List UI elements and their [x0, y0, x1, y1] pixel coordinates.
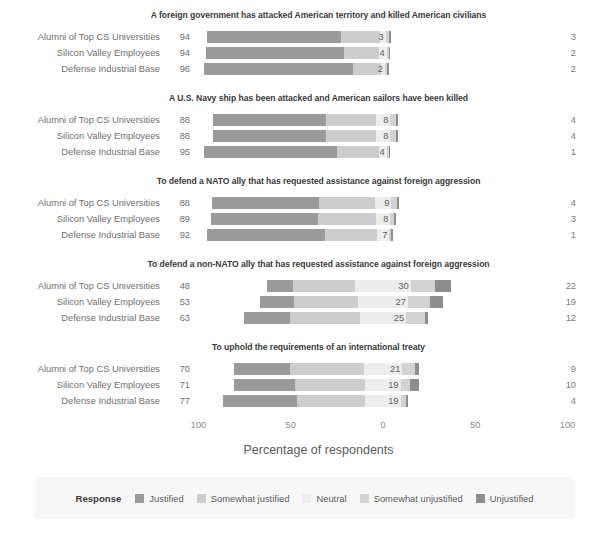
row-group-label: Defense Industrial Base — [0, 228, 160, 242]
legend-swatch-icon — [197, 494, 206, 503]
legend-item[interactable]: Justified — [135, 493, 183, 504]
legend-swatch-icon — [360, 494, 369, 503]
row-group-label: Silicon Valley Employees — [0, 129, 160, 143]
legend-item[interactable]: Somewhat justified — [197, 493, 290, 504]
bar-segment-unjustified — [397, 197, 399, 209]
panel-title: To defend a non-NATO ally that has reque… — [0, 259, 609, 269]
chart-row: Alumni of Top CS Universities8848 — [0, 113, 609, 127]
row-group-label: Alumni of Top CS Universities — [0, 113, 160, 127]
x-axis-title: Percentage of respondents — [0, 443, 609, 457]
bar-segment-unjustified — [435, 280, 452, 292]
bar-segment-unjustified — [396, 114, 398, 126]
row-group-label: Defense Industrial Base — [0, 62, 160, 76]
row-left-total: 71 — [164, 378, 190, 392]
bar-segment-justified — [234, 363, 289, 375]
row-left-total: 88 — [164, 129, 190, 143]
bar-segment-somewhat-justified — [326, 114, 376, 126]
panel-title: A U.S. Navy ship has been attacked and A… — [0, 93, 609, 103]
x-axis-tick: 100 — [560, 420, 576, 430]
chart-row: Alumni of Top CS Universities70921 — [0, 362, 609, 376]
legend-item[interactable]: Neutral — [302, 493, 346, 504]
stacked-bar — [196, 63, 570, 75]
row-neutral-value: 8 — [383, 129, 388, 143]
bar-segment-justified — [204, 146, 337, 158]
chart-row: Silicon Valley Employees8848 — [0, 129, 609, 143]
row-group-label: Defense Industrial Base — [0, 311, 160, 325]
chart-row: Alumni of Top CS Universities482230 — [0, 279, 609, 293]
bar-segment-justified — [213, 114, 326, 126]
panel-title: To uphold the requirements of an interna… — [0, 342, 609, 352]
chart-legend: Response JustifiedSomewhat justifiedNeut… — [35, 477, 574, 519]
row-group-label: Defense Industrial Base — [0, 145, 160, 159]
row-left-total: 48 — [164, 279, 190, 293]
row-neutral-value: 8 — [383, 212, 388, 226]
row-left-total: 70 — [164, 362, 190, 376]
legend-swatch-icon — [302, 494, 311, 503]
bar-segment-justified — [207, 31, 342, 43]
chart-panel: To defend a non-NATO ally that has reque… — [0, 259, 609, 329]
legend-title: Response — [75, 493, 121, 504]
row-neutral-value: 3 — [379, 30, 384, 44]
chart-panel: To uphold the requirements of an interna… — [0, 342, 609, 412]
row-neutral-value: 4 — [380, 145, 385, 159]
chart-row: Silicon Valley Employees531927 — [0, 295, 609, 309]
chart-row: Defense Industrial Base9514 — [0, 145, 609, 159]
bar-segment-somewhat-justified — [290, 363, 364, 375]
legend-item-label: Somewhat unjustified — [374, 493, 463, 504]
legend-item-label: Justified — [149, 493, 183, 504]
chart-panel: To defend a NATO ally that has requested… — [0, 176, 609, 246]
row-neutral-value: 9 — [384, 196, 389, 210]
chart-row: Silicon Valley Employees9424 — [0, 46, 609, 60]
row-neutral-value: 21 — [390, 362, 400, 376]
panel-title: To defend a NATO ally that has requested… — [0, 176, 609, 186]
row-neutral-value: 19 — [388, 394, 398, 408]
chart-row: Silicon Valley Employees8938 — [0, 212, 609, 226]
row-neutral-value: 25 — [394, 311, 404, 325]
row-neutral-value: 30 — [398, 279, 408, 293]
bar-segment-unjustified — [391, 229, 393, 241]
chart-panel: A U.S. Navy ship has been attacked and A… — [0, 93, 609, 163]
legend-item-label: Unjustified — [490, 493, 534, 504]
row-neutral-value: 2 — [378, 62, 383, 76]
legend-swatch-icon — [135, 494, 144, 503]
bar-segment-unjustified — [396, 130, 398, 142]
bar-segment-somewhat-unjustified — [402, 363, 415, 375]
x-axis: 10050050100 — [0, 420, 609, 434]
bar-segment-justified — [204, 63, 353, 75]
row-neutral-value: 19 — [388, 378, 398, 392]
row-left-total: 77 — [164, 394, 190, 408]
row-group-label: Silicon Valley Employees — [0, 46, 160, 60]
row-group-label: Silicon Valley Employees — [0, 212, 160, 226]
row-left-total: 88 — [164, 196, 190, 210]
row-neutral-value: 27 — [396, 295, 406, 309]
chart-panel: A foreign government has attacked Americ… — [0, 10, 609, 80]
chart-row: Alumni of Top CS Universities9433 — [0, 30, 609, 44]
bar-segment-somewhat-justified — [344, 47, 379, 59]
row-left-total: 63 — [164, 311, 190, 325]
bar-segment-justified — [212, 197, 319, 209]
x-axis-tick: 100 — [191, 420, 207, 430]
x-axis-tick: 50 — [470, 420, 480, 430]
row-left-total: 53 — [164, 295, 190, 309]
row-neutral-value: 4 — [380, 46, 385, 60]
chart-row: Defense Industrial Base9217 — [0, 228, 609, 242]
bar-segment-unjustified — [389, 31, 391, 43]
legend-item[interactable]: Somewhat unjustified — [360, 493, 463, 504]
legend-item[interactable]: Unjustified — [476, 493, 534, 504]
stacked-bar — [196, 312, 570, 324]
bar-segment-somewhat-justified — [319, 197, 374, 209]
bar-segment-somewhat-justified — [293, 280, 356, 292]
stacked-bar — [196, 395, 570, 407]
bar-segment-unjustified — [430, 296, 443, 308]
bar-segment-somewhat-justified — [297, 395, 365, 407]
row-group-label: Alumni of Top CS Universities — [0, 279, 160, 293]
bar-segment-somewhat-justified — [295, 379, 365, 391]
row-left-total: 92 — [164, 228, 190, 242]
bar-segment-justified — [244, 312, 290, 324]
diverging-stacked-bar-chart: A foreign government has attacked Americ… — [0, 0, 609, 539]
bar-segment-justified — [267, 280, 293, 292]
bar-segment-justified — [211, 213, 318, 225]
bar-segment-unjustified — [389, 47, 391, 59]
row-group-label: Silicon Valley Employees — [0, 378, 160, 392]
stacked-bar — [196, 197, 570, 209]
